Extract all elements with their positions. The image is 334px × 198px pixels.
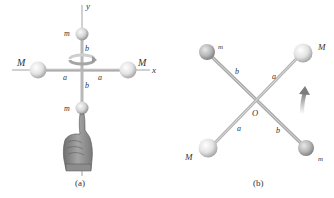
caption-b: (b) xyxy=(253,178,264,188)
rod-a-lower-label: a xyxy=(237,124,241,133)
mass-M-right xyxy=(120,62,137,79)
axis-x-label: x xyxy=(151,65,156,75)
mass-m-bottom-label: m xyxy=(64,104,70,113)
figure-canvas: y x M M m m a a b b (a) m M M m b a a b … xyxy=(0,0,334,198)
mass-M-top-right xyxy=(294,44,313,63)
mass-M-left xyxy=(30,62,47,79)
caption-a: (a) xyxy=(75,178,85,188)
panel-a: y x M M m m a a b b (a) xyxy=(12,1,156,188)
mass-M-top-right-label: M xyxy=(317,42,326,52)
mass-m-bottom xyxy=(76,102,89,115)
mass-M-right-label: M xyxy=(137,57,147,68)
rod-b-lower-label: b xyxy=(276,126,280,135)
rod-a-right-label: a xyxy=(98,73,102,82)
rotation-arrowhead-icon xyxy=(299,86,310,95)
rod-a-left-label: a xyxy=(63,73,67,82)
mass-m-bottom-right-label: m xyxy=(318,155,323,163)
panel-b: m M M m b a a b O (b) xyxy=(184,42,326,188)
mass-m-top-left-label: m xyxy=(218,43,223,51)
mass-M-bottom-left-label: M xyxy=(184,152,193,162)
mass-m-top-label: m xyxy=(64,29,70,38)
rod-a-upper-label: a xyxy=(272,72,276,81)
origin-label: O xyxy=(252,108,258,118)
mass-M-left-label: M xyxy=(16,57,26,68)
rod-b-upper-label: b xyxy=(235,67,239,76)
rod-b-top-label: b xyxy=(85,44,89,53)
mass-m-top-left xyxy=(199,44,215,60)
mass-m-top xyxy=(76,28,89,41)
axis-y-label: y xyxy=(85,1,90,11)
hand-icon xyxy=(63,114,92,171)
mass-m-bottom-right xyxy=(298,140,314,156)
rod-b-bottom-label: b xyxy=(85,81,89,90)
rotation-arrow-icon xyxy=(302,92,305,114)
rod-vertical xyxy=(81,35,84,107)
mass-M-bottom-left xyxy=(199,139,218,158)
